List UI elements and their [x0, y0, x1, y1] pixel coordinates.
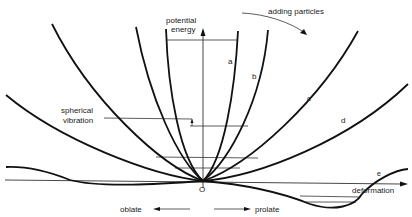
prolate-label: prolate: [255, 205, 279, 214]
y-axis-label-line1: potential: [166, 16, 196, 25]
x-axis-arrowhead: [400, 182, 408, 187]
x-axis-label: deformation: [352, 186, 394, 195]
spherical-vibration-arrowhead: [191, 119, 194, 123]
curve-d: [6, 84, 408, 181]
adding-particles-label: adding particles: [268, 7, 324, 16]
spherical-vibration-label-line2: vibration: [63, 116, 93, 125]
prolate-arrowhead: [244, 207, 251, 211]
energy-level-spherical-vibration: [104, 118, 192, 119]
energy-level-e-1: [300, 196, 360, 197]
curve-a: [166, 29, 238, 181]
energy-level-3: [156, 157, 258, 158]
spherical-vibration-label-line1: spherical: [61, 106, 93, 115]
curve-e-label: e: [377, 169, 381, 178]
curve-d-label: d: [341, 116, 345, 125]
curve-a-label: a: [228, 57, 232, 66]
origin-label: O: [199, 185, 205, 194]
oblate-arrowhead: [153, 207, 160, 211]
y-axis-label-line2: energy: [171, 25, 195, 34]
y-axis-arrowhead: [201, 28, 206, 36]
curve-e: [6, 167, 408, 208]
curve-b-label: b: [252, 72, 256, 81]
curve-c-label: c: [307, 94, 311, 103]
oblate-label: oblate: [120, 205, 142, 214]
adding-particles-arrow: [242, 13, 305, 33]
